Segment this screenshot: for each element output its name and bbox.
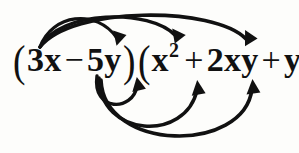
term-5y: 5y [87, 43, 122, 77]
plus-operator-2: + [259, 43, 284, 77]
term-x-squared: x [152, 43, 169, 77]
term-2xy: 2xy [207, 43, 259, 77]
open-paren-right-factor: ( [138, 40, 151, 84]
expression-layer: (3x−5y)(x2+2xy+y2) [0, 0, 299, 153]
plus-operator-1: + [181, 43, 206, 77]
close-paren-left-factor: ) [123, 40, 136, 84]
open-paren-left-factor: ( [13, 40, 26, 84]
distribution-diagram: (3x−5y)(x2+2xy+y2) [0, 0, 299, 153]
exponent-x-squared: 2 [169, 39, 179, 61]
algebraic-expression: (3x−5y)(x2+2xy+y2) [12, 40, 299, 84]
term-3x: 3x [27, 43, 62, 77]
minus-operator: − [62, 43, 87, 77]
term-y-squared: y [284, 43, 299, 77]
